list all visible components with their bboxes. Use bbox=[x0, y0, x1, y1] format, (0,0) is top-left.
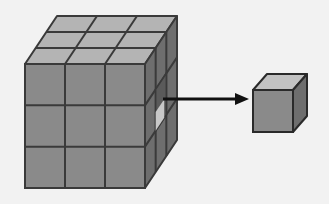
front-face bbox=[253, 90, 293, 132]
large-cube-3x3x3 bbox=[25, 16, 177, 188]
cube-diagram bbox=[0, 0, 329, 204]
unit-cube bbox=[253, 74, 307, 132]
diagram-canvas bbox=[0, 0, 329, 204]
front-face bbox=[25, 64, 145, 188]
arrow-head-icon bbox=[235, 93, 249, 105]
